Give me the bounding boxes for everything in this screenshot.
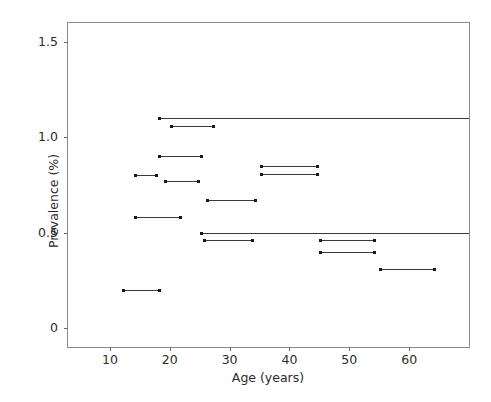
data-segment [206,200,257,201]
segment-end-marker [373,251,376,254]
segment-end-marker [254,199,257,202]
x-axis-tick-label: 20 [162,354,178,367]
x-axis-tick: 40 [289,347,290,351]
segment-start-marker [203,239,206,242]
data-segment [134,175,158,176]
y-axis-tick-label: 0.5 [38,226,58,239]
segment-start-marker [319,251,322,254]
segment-end-marker [433,268,436,271]
x-axis-tick-label: 30 [222,354,238,367]
y-axis-tick: 0.5 [64,233,68,234]
segment-start-marker [164,180,167,183]
segment-start-marker [158,117,161,120]
y-axis-tick: 1.5 [64,42,68,43]
segment-end-marker [251,239,254,242]
x-axis-tick: 20 [170,347,171,351]
y-axis-tick: 0 [64,328,68,329]
data-segment [319,240,376,241]
segment-end-marker [158,289,161,292]
segment-start-marker [200,232,203,235]
x-axis-tick: 30 [230,347,231,351]
data-segment [158,118,469,119]
segment-start-marker [134,216,137,219]
x-axis-label: Age (years) [232,370,304,385]
segment-start-marker [260,165,263,168]
chart-figure: Prevalence (%) 00.51.01.5102030405060 Ag… [0,0,491,402]
x-axis-tick: 10 [110,347,111,351]
data-segment [158,156,203,157]
segment-start-marker [170,125,173,128]
segment-end-marker [197,180,200,183]
data-segment [170,126,215,127]
data-segment [203,240,254,241]
segment-end-marker [373,239,376,242]
y-axis-tick: 1.0 [64,137,68,138]
segment-start-marker [379,268,382,271]
segment-start-marker [122,289,125,292]
x-axis-tick-label: 60 [401,354,417,367]
segment-start-marker [260,173,263,176]
segment-start-marker [206,199,209,202]
x-axis-tick-label: 40 [281,354,297,367]
segment-end-marker [179,216,182,219]
x-axis-tick: 60 [409,347,410,351]
data-segment [260,174,320,175]
segment-start-marker [134,174,137,177]
data-segment [379,269,436,270]
segment-end-marker [316,173,319,176]
segment-end-marker [316,165,319,168]
y-axis-tick-label: 1.5 [38,36,58,49]
y-axis-tick-label: 1.0 [38,131,58,144]
segment-start-marker [319,239,322,242]
data-segment [122,290,161,291]
plot-area: 00.51.01.5102030405060 [67,22,470,348]
data-segment [319,252,376,253]
segment-end-marker [155,174,158,177]
data-segment [134,217,182,218]
data-segment [200,233,469,234]
segment-start-marker [158,155,161,158]
x-axis-tick-label: 50 [341,354,357,367]
data-segment [164,181,200,182]
x-axis-tick: 50 [349,347,350,351]
data-segment [260,166,320,167]
segment-end-marker [212,125,215,128]
y-axis-tick-label: 0 [50,322,58,335]
x-axis-tick-label: 10 [102,354,118,367]
segment-end-marker [200,155,203,158]
